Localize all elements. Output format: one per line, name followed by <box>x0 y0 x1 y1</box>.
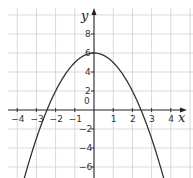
x-tick-label: 4 <box>168 114 174 124</box>
x-tick-label: 2 <box>130 114 136 124</box>
y-tick-label: −2 <box>79 124 92 134</box>
y-tick-label: −6 <box>79 162 93 172</box>
origin-label: 0 <box>84 96 90 106</box>
y-axis-arrow-icon <box>92 8 97 15</box>
parabola-chart: −4−3−2−11234−6−4−22468 x y 0 <box>0 0 193 178</box>
axes <box>8 8 187 178</box>
x-axis-label: x <box>178 110 186 125</box>
x-tick-label: −1 <box>69 114 82 124</box>
grid <box>8 8 193 178</box>
x-tick-label: 3 <box>149 114 155 124</box>
tick-labels: −4−3−2−11234−6−4−22468 <box>11 29 174 172</box>
x-tick-label: −2 <box>50 114 63 124</box>
y-tick-label: −4 <box>79 143 93 153</box>
y-tick-label: 4 <box>85 67 91 77</box>
x-tick-label: 1 <box>111 114 117 124</box>
y-tick-label: 8 <box>85 29 91 39</box>
y-axis-label: y <box>80 8 89 23</box>
x-tick-label: −4 <box>11 114 25 124</box>
y-tick-label: 2 <box>85 86 91 96</box>
